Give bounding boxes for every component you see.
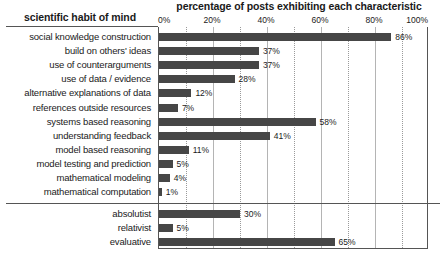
category-label: social knowledge construction (29, 30, 151, 44)
group-divider (6, 203, 440, 204)
bar-series: 86%37%37%28%12%7%58%41%11%5%4%1%30%5%65% (159, 27, 427, 248)
x-tick-label: 100% (406, 15, 428, 25)
x-tick-label: 80% (365, 15, 382, 25)
bar (159, 118, 316, 126)
bar (159, 75, 235, 83)
category-label: mathematical computation (44, 185, 151, 199)
bar-value-label: 11% (193, 143, 209, 157)
category-label: understanding feedback (53, 129, 151, 143)
plot-area: 86%37%37%28%12%7%58%41%11%5%4%1%30%5%65% (158, 27, 428, 249)
bar-value-label: 4% (174, 171, 186, 185)
bar (159, 89, 191, 97)
bar (159, 47, 259, 55)
bar-chart: percentage of posts exhibiting each char… (0, 0, 440, 257)
x-tick-label: 20% (203, 15, 220, 25)
category-label: use of data / evidence (61, 72, 151, 86)
category-axis-title: scientific habit of mind (6, 11, 154, 23)
category-label: model based reasoning (55, 143, 151, 157)
bar-value-label: 30% (244, 207, 261, 221)
bar-value-label: 65% (339, 235, 356, 249)
bar-row: 58% (159, 115, 429, 129)
bar (159, 160, 173, 168)
bar (159, 146, 189, 154)
bar-row: 28% (159, 72, 429, 86)
bar-row: 4% (159, 171, 429, 185)
bar (159, 104, 178, 112)
x-axis-ticks: 0%20%40%60%80%100% (158, 15, 428, 27)
bar-row: 7% (159, 101, 429, 115)
category-label: systems based reasoning (47, 115, 151, 129)
bar (159, 174, 170, 182)
bar-row: 37% (159, 44, 429, 58)
category-label: relativist (118, 221, 151, 235)
bar (159, 33, 391, 41)
bar-row: 37% (159, 58, 429, 72)
bar (159, 132, 270, 140)
bar-row: 30% (159, 207, 429, 221)
x-tick-label: 40% (257, 15, 274, 25)
category-label: mathematical modeling (56, 171, 151, 185)
bar-value-label: 37% (263, 58, 280, 72)
bar-row: 65% (159, 235, 429, 249)
category-label: use of counterarguments (49, 58, 151, 72)
x-tick-label: 0% (158, 15, 170, 25)
bar-row: 1% (159, 185, 429, 199)
bar-value-label: 5% (177, 221, 189, 235)
bar-row: 5% (159, 157, 429, 171)
bar-value-label: 37% (263, 44, 280, 58)
bar-value-label: 12% (195, 86, 212, 100)
bar-row: 41% (159, 129, 429, 143)
x-tick-label: 60% (311, 15, 328, 25)
bar-value-label: 5% (177, 157, 189, 171)
chart-title: percentage of posts exhibiting each char… (158, 0, 440, 12)
bar-row: 12% (159, 86, 429, 100)
bar (159, 61, 259, 69)
bar-value-label: 41% (274, 129, 291, 143)
category-label: absolutist (112, 207, 151, 221)
bar-value-label: 28% (239, 72, 256, 86)
bar-row: 5% (159, 221, 429, 235)
category-label: references outside resources (33, 101, 151, 115)
bar-value-label: 58% (320, 115, 337, 129)
bar-value-label: 1% (166, 185, 178, 199)
bar-row: 11% (159, 143, 429, 157)
category-label: build on others' ideas (65, 44, 151, 58)
bar-value-label: 86% (395, 30, 412, 44)
category-label-column: social knowledge constructionbuild on ot… (0, 27, 155, 249)
bar-value-label: 7% (182, 101, 194, 115)
bar (159, 210, 240, 218)
bar (159, 188, 162, 196)
category-label: alternative explanations of data (24, 86, 151, 100)
bar (159, 224, 173, 232)
category-label: model testing and prediction (36, 157, 151, 171)
bar-row: 86% (159, 30, 429, 44)
category-label: evaluative (110, 235, 151, 249)
bar (159, 238, 335, 246)
